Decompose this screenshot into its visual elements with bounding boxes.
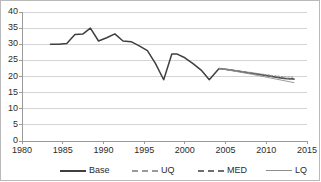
y-tick-35: 35 <box>0 23 18 32</box>
legend-swatch-med <box>198 167 224 174</box>
y-tick-5: 5 <box>0 120 18 129</box>
x-tick-1980: 1980 <box>7 146 37 155</box>
series-lines <box>51 28 294 83</box>
chart-legend: Base UQ MED LQ <box>22 163 307 177</box>
x-tick-1985: 1985 <box>48 146 78 155</box>
legend-label-base: Base <box>89 166 110 175</box>
y-tick-15: 15 <box>0 88 18 97</box>
legend-item-lq[interactable]: LQ <box>266 163 307 177</box>
legend-swatch-lq <box>266 167 292 174</box>
legend-item-med[interactable]: MED <box>198 163 247 177</box>
y-tick-20: 20 <box>0 72 18 81</box>
x-tick-2010: 2010 <box>251 146 281 155</box>
x-tick-2000: 2000 <box>170 146 200 155</box>
legend-item-base[interactable]: Base <box>60 163 110 177</box>
x-tick-1990: 1990 <box>88 146 118 155</box>
legend-label-med: MED <box>227 166 247 175</box>
legend-label-uq: UQ <box>161 166 175 175</box>
y-tick-25: 25 <box>0 55 18 64</box>
x-tick-2015: 2015 <box>292 146 321 155</box>
legend-item-uq[interactable]: UQ <box>132 163 175 177</box>
y-tick-10: 10 <box>0 104 18 113</box>
y-tick-0: 0 <box>0 136 18 145</box>
y-tick-30: 30 <box>0 39 18 48</box>
legend-swatch-uq <box>132 167 158 174</box>
y-tick-40: 40 <box>0 7 18 16</box>
x-tick-2005: 2005 <box>211 146 241 155</box>
x-tick-1995: 1995 <box>129 146 159 155</box>
legend-label-lq: LQ <box>295 166 307 175</box>
legend-swatch-base <box>60 167 86 174</box>
